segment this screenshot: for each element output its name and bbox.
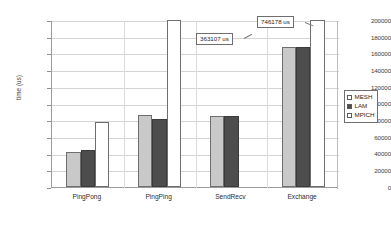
bar-mpich-pingping: [167, 20, 181, 187]
data-label-callout: 746178 us: [257, 16, 294, 28]
legend: MESHLAMMPICH: [344, 90, 378, 123]
bar-mesh-pingpong: [66, 152, 80, 187]
y-tick-label: 160000: [347, 51, 391, 57]
plot-right-border: [337, 21, 338, 189]
bar-lam-pingpong: [81, 150, 95, 187]
bar-chart: time (us) 200000180000160000140000120000…: [0, 0, 391, 226]
legend-item-label: LAM: [355, 103, 368, 109]
category-separator: [124, 21, 125, 188]
bar-mesh-exchange: [282, 47, 296, 187]
bar-lam-exchange: [296, 47, 310, 187]
y-tick-label: 140000: [347, 68, 391, 74]
bar-mesh-sendrecv: [210, 116, 224, 187]
category-separator: [267, 21, 268, 188]
x-tick-label: SendRecv: [195, 193, 267, 200]
legend-item-label: MPICH: [355, 112, 375, 118]
x-tick-label: PingPong: [51, 193, 123, 200]
legend-item-lam[interactable]: LAM: [347, 102, 374, 111]
bar-lam-pingping: [152, 119, 166, 187]
bar-mesh-pingping: [138, 115, 152, 187]
legend-swatch-icon: [347, 95, 352, 100]
y-tick-label: 180000: [347, 35, 391, 41]
y-tick-label: 60000: [347, 135, 391, 141]
legend-item-label: MESH: [355, 94, 373, 100]
bar-lam-sendrecv: [224, 116, 238, 187]
y-tick-label: 0: [347, 185, 391, 191]
y-axis-title: time (us): [15, 48, 22, 128]
legend-item-mesh[interactable]: MESH: [347, 93, 374, 102]
data-label-callout: 363107 us: [196, 33, 233, 45]
legend-swatch-icon: [347, 104, 352, 109]
x-tick-label: Exchange: [266, 193, 338, 200]
bar-mpich-pingpong: [95, 122, 109, 187]
y-tick-label: 40000: [347, 151, 391, 157]
legend-swatch-icon: [347, 113, 352, 118]
category-separator: [196, 21, 197, 188]
y-tick-mark: [47, 188, 51, 189]
y-tick-label: 200000: [347, 18, 391, 24]
plot-area: [51, 21, 338, 188]
bar-mpich-exchange: [310, 20, 324, 187]
x-tick-label: PingPing: [123, 193, 195, 200]
legend-item-mpich[interactable]: MPICH: [347, 111, 374, 120]
y-tick-label: 20000: [347, 168, 391, 174]
